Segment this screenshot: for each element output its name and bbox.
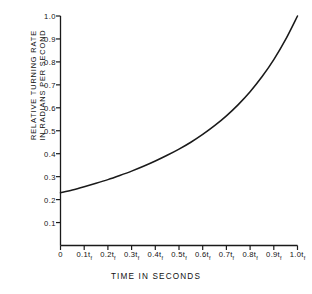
x-tick-subscript: f (138, 255, 140, 261)
x-tick-label: 0.3tf (124, 250, 139, 261)
y-tick-marks (56, 16, 61, 223)
data-curve (61, 16, 298, 193)
x-tick-label: 0.6tf (195, 250, 210, 261)
x-tick-subscript: f (304, 255, 306, 261)
axis-lines (61, 16, 298, 246)
x-axis-title: TIME IN SECONDS (0, 272, 312, 281)
x-tick-subscript: f (233, 255, 235, 261)
x-tick-subscript: f (256, 255, 258, 261)
x-tick-label: 0.7tf (219, 250, 234, 261)
chart-figure: RELATIVE TURNING RATE IN RADIANS PER SEC… (0, 0, 312, 294)
x-tick-label: 0.8tf (242, 250, 257, 261)
x-tick-subscript: f (185, 255, 187, 261)
x-tick-subscript: f (209, 255, 211, 261)
x-tick-subscript: f (280, 255, 282, 261)
x-tick-label: 0.4tf (148, 250, 163, 261)
x-tick-subscript: f (161, 255, 163, 261)
x-tick-label: 0 (58, 250, 63, 259)
x-tick-subscript: f (114, 255, 116, 261)
x-tick-label: 0.9tf (266, 250, 281, 261)
x-tick-label: 0.5tf (171, 250, 186, 261)
x-tick-label: 0.2tf (100, 250, 115, 261)
x-tick-label: 1.0tf (290, 250, 305, 261)
x-tick-subscript: f (90, 255, 92, 261)
x-tick-label: 0.1tf (77, 250, 92, 261)
x-tick-label-group: 00.1tf0.2tf0.3tf0.4tf0.5tf0.6tf0.7tf0.8t… (0, 250, 312, 264)
